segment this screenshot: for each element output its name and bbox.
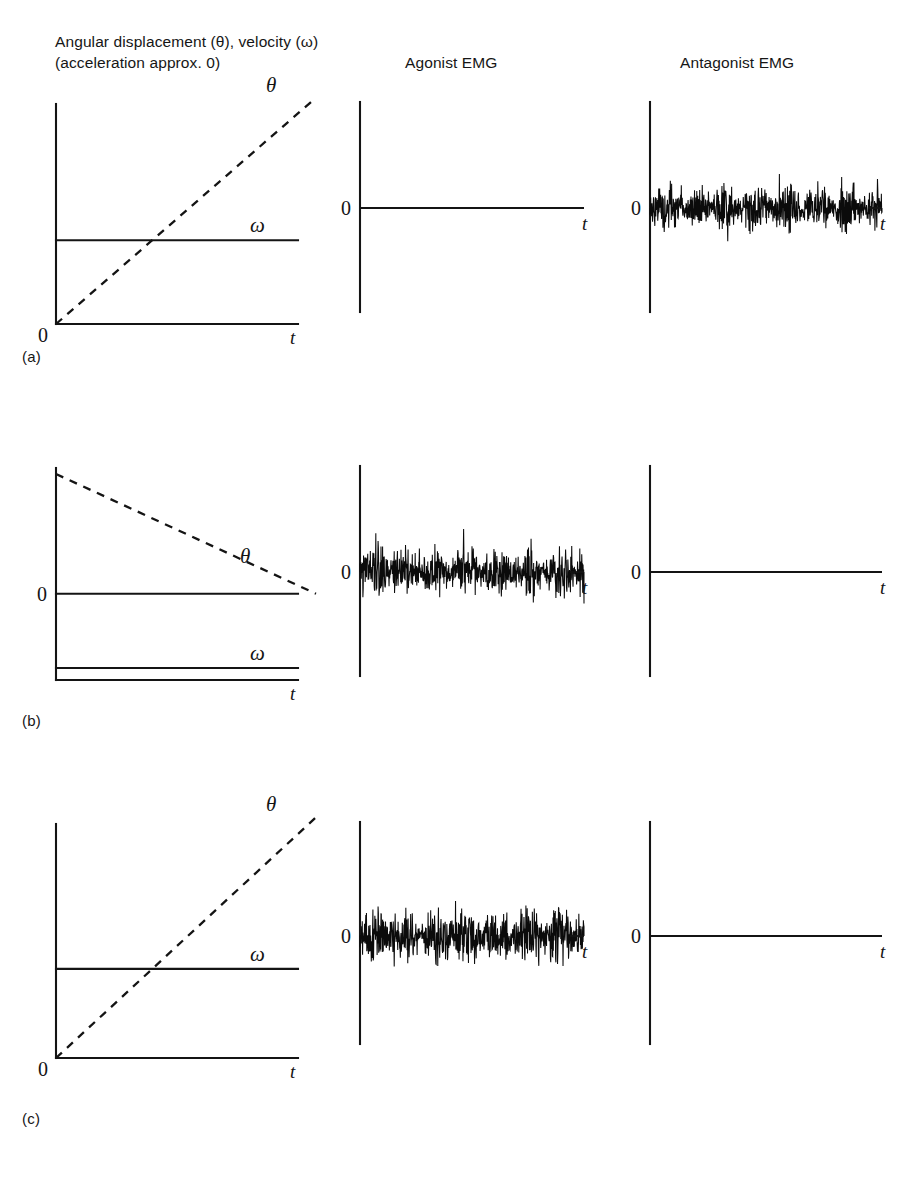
column-header-agonist: Agonist EMG [405,52,497,73]
column-header-kinematics-line1: Angular displacement (θ), velocity (ω) [55,31,318,52]
column-header-kinematics: Angular displacement (θ), velocity (ω) (… [55,31,318,73]
row-label-b: (b) [22,712,41,729]
figure-canvas: Angular displacement (θ), velocity (ω) (… [0,0,923,1183]
row-label-c: (c) [22,1110,40,1127]
omega-curve-label: ω [250,641,265,665]
time-axis-label: t [582,577,588,598]
theta-displacement-curve [56,817,316,1058]
zero-label: 0 [631,925,641,947]
time-axis-label: t [290,1061,296,1082]
time-axis-label: t [290,327,296,348]
time-axis-label: t [290,683,296,704]
omega-curve-label: ω [250,942,265,966]
zero-label: 0 [38,1058,48,1080]
zero-label: 0 [341,197,351,219]
time-axis-label: t [582,941,588,962]
panel-b-agonist-emg: 0t [346,462,636,692]
time-axis-label: t [880,213,886,234]
zero-label: 0 [341,925,351,947]
theta-curve-label: θ [266,792,276,816]
time-axis-label: t [880,941,886,962]
column-header-antagonist: Antagonist EMG [680,52,794,73]
column-header-kinematics-line2: (acceleration approx. 0) [55,52,318,73]
zero-label: 0 [341,561,351,583]
time-axis-label: t [880,577,886,598]
zero-label: 0 [38,324,48,346]
panel-a-antagonist-emg: 0t [636,98,923,328]
panel-c-kinematics: 0θωt [46,818,354,1106]
zero-label: 0 [631,561,641,583]
theta-curve-label: θ [240,544,250,568]
emg-signal-trace [360,529,584,603]
zero-label: 0 [37,583,47,605]
omega-curve-label: ω [250,213,265,237]
theta-displacement-curve [56,474,316,594]
emg-signal-trace [360,901,584,967]
panel-b-antagonist-emg: 0t [636,462,923,692]
theta-displacement-curve [56,98,316,324]
panel-b-kinematics: 0θωt [46,462,354,726]
time-axis-label: t [582,213,588,234]
panel-c-antagonist-emg: 0t [636,818,923,1060]
zero-label: 0 [631,197,641,219]
panel-a-kinematics: 0θωt [46,98,354,372]
panel-a-agonist-emg: 0t [346,98,636,328]
panel-c-agonist-emg: 0t [346,818,636,1060]
emg-signal-trace [650,174,882,241]
theta-curve-label: θ [266,73,276,97]
row-label-a: (a) [22,348,41,365]
